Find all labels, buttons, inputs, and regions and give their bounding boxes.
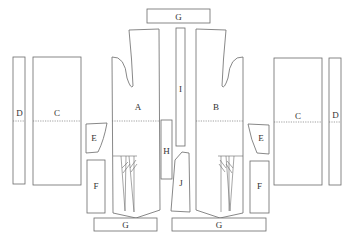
piece-a: A bbox=[112, 29, 160, 218]
label-c-left: C bbox=[54, 108, 60, 118]
label-c-right: C bbox=[295, 111, 301, 121]
label-j: J bbox=[179, 178, 183, 188]
label-g-bottom-left: G bbox=[122, 220, 129, 230]
label-f-right: F bbox=[257, 181, 262, 191]
label-g-bottom-right: G bbox=[216, 220, 223, 230]
piece-f-right: F bbox=[250, 161, 269, 213]
piece-g-bottom-left: G bbox=[94, 218, 157, 231]
piece-e-right: E bbox=[248, 124, 269, 154]
piece-g-bottom-right: G bbox=[172, 218, 266, 231]
label-e-right: E bbox=[258, 133, 264, 143]
label-d-left: D bbox=[16, 108, 23, 118]
piece-j: J bbox=[171, 152, 190, 212]
piece-e-left: E bbox=[86, 123, 107, 153]
piece-h: H bbox=[161, 120, 172, 179]
label-i: I bbox=[179, 84, 182, 94]
pattern-layout-diagram: G A B I H J C D E bbox=[0, 0, 351, 242]
label-d-right: D bbox=[332, 110, 339, 120]
label-b: B bbox=[213, 102, 219, 112]
label-e-left: E bbox=[91, 133, 97, 143]
piece-f-left: F bbox=[87, 160, 105, 213]
piece-c-right: C bbox=[274, 58, 322, 185]
label-a: A bbox=[135, 102, 142, 112]
label-h: H bbox=[163, 146, 170, 156]
label-g: G bbox=[175, 12, 182, 22]
piece-d-right: D bbox=[329, 58, 341, 185]
piece-i: I bbox=[176, 28, 185, 146]
label-f-left: F bbox=[93, 181, 98, 191]
piece-d-left: D bbox=[13, 57, 25, 184]
piece-b: B bbox=[196, 29, 243, 218]
piece-g-top: G bbox=[147, 9, 210, 23]
